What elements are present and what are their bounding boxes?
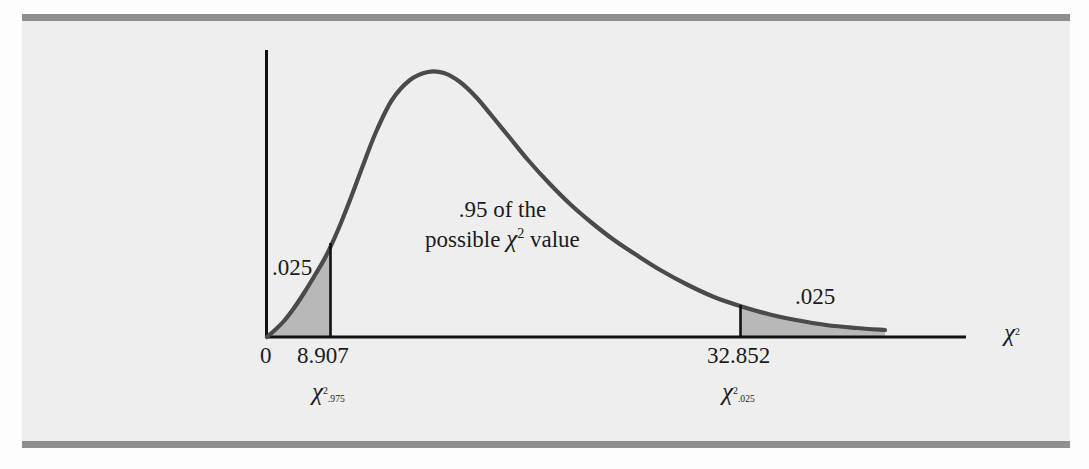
- chi-right-subscript: .025: [738, 393, 755, 404]
- chi-quantile-left-label: χ2.975: [312, 379, 345, 404]
- center-area-prefix: possible: [425, 227, 500, 252]
- critical-value-right-label: 32.852: [707, 344, 770, 367]
- center-area-suffix: value: [530, 227, 580, 252]
- chi-left-subscript: .975: [328, 393, 345, 404]
- origin-tick-label: 0: [260, 344, 272, 367]
- x-axis-chi-exponent: 2: [1015, 326, 1020, 337]
- chi-right-symbol: χ: [722, 378, 733, 405]
- center-area-label: .95 of the possible χ2 value: [425, 196, 580, 255]
- x-axis-chi-symbol: χ: [1004, 319, 1015, 346]
- center-chi-exponent: 2: [517, 225, 524, 241]
- left-tail-area-label: .025: [272, 256, 312, 279]
- chi-quantile-right-label: χ2.025: [722, 379, 755, 404]
- center-area-line1: .95 of the: [425, 196, 580, 224]
- right-tail-area-label: .025: [795, 285, 835, 308]
- chi-left-symbol: χ: [312, 378, 323, 405]
- x-axis-title: χ2: [1004, 320, 1020, 345]
- critical-value-left-label: 8.907: [297, 344, 349, 367]
- center-chi-symbol: χ: [506, 225, 517, 252]
- center-area-line2: possible χ2 value: [425, 224, 580, 255]
